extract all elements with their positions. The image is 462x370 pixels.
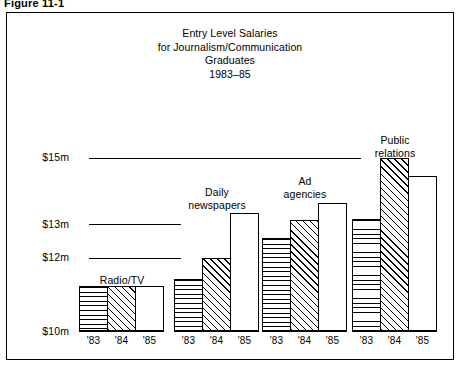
- tick-label-radio-tv-84: '84: [107, 335, 136, 346]
- bar-public-relations-85: [408, 176, 437, 331]
- y-axis-label-10m: $10m: [21, 326, 69, 337]
- bar-daily-newspapers-83: [174, 279, 203, 331]
- bar-radio-tv-84: [107, 286, 136, 331]
- tick-label-public-relations-83: '83: [352, 335, 381, 346]
- bar-ad-agencies-84: [290, 220, 319, 331]
- tick-label-public-relations-85: '85: [408, 335, 437, 346]
- group-label-daily-newspapers-line-2: newspapers: [162, 199, 272, 212]
- group-label-ad-agencies-line-2: agencies: [250, 188, 360, 201]
- bar-public-relations-84: [380, 158, 409, 331]
- baseline-ad-agencies: [262, 331, 347, 332]
- group-label-ad-agencies-line-1: Ad: [250, 175, 360, 188]
- y-axis-label-12m: $12m: [21, 252, 69, 263]
- tick-label-radio-tv-85: '85: [135, 335, 164, 346]
- group-label-radio-tv-line-1: Radio/TV: [67, 274, 177, 287]
- figure-caption: Figure 11-1: [4, 0, 64, 9]
- baseline-radio-tv: [79, 331, 164, 332]
- group-label-ad-agencies: Ad agencies: [250, 175, 360, 200]
- plot-area: $15m $13m $12m $10m Radio/TV '83 '84 '85…: [7, 13, 455, 361]
- tick-label-daily-newspapers-85: '85: [230, 335, 259, 346]
- group-label-radio-tv: Radio/TV: [67, 274, 177, 287]
- baseline-public-relations: [352, 331, 437, 332]
- bar-radio-tv-83: [79, 286, 108, 331]
- group-label-public-relations: Public relations: [340, 134, 450, 159]
- bar-radio-tv-85: [135, 286, 164, 331]
- tick-label-radio-tv-83: '83: [79, 335, 108, 346]
- tick-label-daily-newspapers-83: '83: [174, 335, 203, 346]
- baseline-daily-newspapers: [174, 331, 259, 332]
- gridline-12m: [89, 258, 181, 259]
- y-axis-label-13m: $13m: [21, 219, 69, 230]
- gridline-15m: [89, 158, 361, 159]
- chart-frame: Entry Level Salaries for Journalism/Comm…: [6, 12, 454, 360]
- tick-label-public-relations-84: '84: [380, 335, 409, 346]
- bar-daily-newspapers-84: [202, 258, 231, 331]
- group-label-public-relations-line-1: Public: [340, 134, 450, 147]
- bar-ad-agencies-85: [318, 203, 347, 331]
- tick-label-ad-agencies-85: '85: [318, 335, 347, 346]
- tick-label-ad-agencies-84: '84: [290, 335, 319, 346]
- bar-ad-agencies-83: [262, 238, 291, 331]
- gridline-13m: [89, 224, 181, 225]
- bar-public-relations-83: [352, 219, 381, 331]
- bar-daily-newspapers-85: [230, 213, 259, 331]
- tick-label-daily-newspapers-84: '84: [202, 335, 231, 346]
- y-axis-label-15m: $15m: [21, 152, 69, 163]
- tick-label-ad-agencies-83: '83: [262, 335, 291, 346]
